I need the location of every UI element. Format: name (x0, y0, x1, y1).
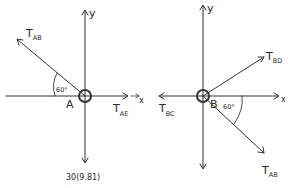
right-tbd-label: TBD (265, 50, 282, 65)
left-tab-label: TAB (25, 27, 42, 42)
right-tbc-label: TBC (158, 102, 175, 118)
fbd-point-a: y 30(9.81) x TAE TAB 60° A (6, 7, 144, 182)
left-tae-label: TAE (112, 102, 128, 118)
left-y-label: y (89, 7, 96, 20)
right-angle-arc (234, 96, 242, 124)
left-weight-label: 30(9.81) (66, 173, 100, 182)
left-angle-label: 60° (56, 86, 68, 94)
right-angle-label: 60° (223, 103, 235, 111)
left-tab-vector (18, 40, 85, 96)
right-x-label: x (281, 95, 286, 104)
right-tbd-vector (203, 57, 264, 96)
fbd-point-b: y x TBC TBD TAB 60° B (158, 2, 286, 179)
right-y-label: y (207, 2, 214, 15)
left-point-label: A (66, 98, 74, 111)
right-point-label: B (210, 98, 218, 111)
right-tab-label: TAB (261, 164, 278, 179)
left-x-label: x (139, 96, 144, 105)
free-body-diagrams: y 30(9.81) x TAE TAB 60° A y (0, 0, 288, 188)
